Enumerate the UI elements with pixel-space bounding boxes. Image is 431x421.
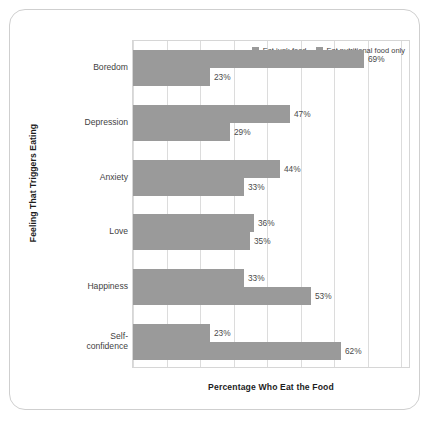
bar-row[interactable]: 23% [133, 68, 409, 86]
bar[interactable] [133, 160, 280, 178]
gridline-70 [368, 41, 369, 367]
bar[interactable] [133, 178, 244, 196]
bar-row[interactable]: 47% [133, 105, 409, 123]
category-label-line: confidence [32, 341, 128, 351]
gridline-60 [334, 41, 335, 367]
bar-value-label: 35% [254, 236, 271, 246]
category-label-line: Self- [32, 331, 128, 341]
bar-value-label: 44% [284, 164, 301, 174]
bar-group: 47%29% [133, 105, 409, 141]
bar[interactable] [133, 105, 290, 123]
category-label: Love [32, 226, 128, 236]
bar-group: 23%62% [133, 324, 409, 360]
gridline-20 [200, 41, 201, 367]
gridline-0 [133, 41, 134, 367]
bar-row[interactable]: 62% [133, 342, 409, 360]
category-label: Self-confidence [32, 331, 128, 351]
bar-value-label: 69% [368, 54, 385, 64]
bar-group: 69%23% [133, 50, 409, 86]
gridline-10 [167, 41, 168, 367]
bar-value-label: 33% [248, 182, 265, 192]
bar-value-label: 47% [294, 109, 311, 119]
bar[interactable] [133, 50, 364, 68]
bar-value-label: 36% [258, 218, 275, 228]
bar-row[interactable]: 33% [133, 178, 409, 196]
gridline-40 [267, 41, 268, 367]
bar-value-label: 62% [345, 346, 362, 356]
bar-row[interactable]: 53% [133, 287, 409, 305]
bar-value-label: 29% [234, 127, 251, 137]
bar[interactable] [133, 123, 230, 141]
category-label: Anxiety [32, 172, 128, 182]
gridline-30 [234, 41, 235, 367]
gridline-50 [301, 41, 302, 367]
bar[interactable] [133, 287, 311, 305]
category-axis: BoredomDepressionAnxietyLoveHappinessSel… [28, 40, 128, 368]
bar-group: 36%35% [133, 214, 409, 250]
bar[interactable] [133, 214, 254, 232]
bar-value-label: 23% [214, 72, 231, 82]
chart-card: Feeling That Triggers Eating BoredomDepr… [9, 9, 420, 410]
bar-value-label: 23% [214, 328, 231, 338]
category-label: Depression [32, 117, 128, 127]
bar[interactable] [133, 232, 250, 250]
bar[interactable] [133, 269, 244, 287]
category-label: Happiness [32, 281, 128, 291]
plot-area: Eat junk foodEat nutritional food only 6… [132, 40, 410, 368]
bar[interactable] [133, 324, 210, 342]
gridline-80 [401, 41, 402, 367]
bar[interactable] [133, 342, 341, 360]
bar-row[interactable]: 29% [133, 123, 409, 141]
bar-row[interactable]: 23% [133, 324, 409, 342]
bar-row[interactable]: 33% [133, 269, 409, 287]
bar-row[interactable]: 36% [133, 214, 409, 232]
bar-row[interactable]: 35% [133, 232, 409, 250]
category-label: Boredom [32, 62, 128, 72]
bar-value-label: 53% [315, 291, 332, 301]
bar-row[interactable]: 69% [133, 50, 409, 68]
x-axis-title: Percentage Who Eat the Food [132, 382, 410, 392]
bar-group: 44%33% [133, 160, 409, 196]
bar-group: 33%53% [133, 269, 409, 305]
bar-value-label: 33% [248, 273, 265, 283]
bar-row[interactable]: 44% [133, 160, 409, 178]
bar[interactable] [133, 68, 210, 86]
